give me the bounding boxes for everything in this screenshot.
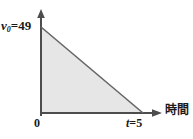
x-intercept-value: 5 — [136, 116, 142, 130]
y-intercept-value: 49 — [18, 18, 31, 33]
origin-label: 0 — [34, 117, 40, 129]
x-axis-arrowhead-icon — [152, 109, 162, 117]
y-axis-arrowhead-icon — [37, 9, 45, 18]
x-intercept-label: t=5 — [126, 117, 142, 129]
x-axis-caption: 時間 — [165, 104, 189, 116]
y-intercept-label: v0=49 — [1, 19, 31, 34]
velocity-time-graph-figure: v0=49 0 t=5 時間 — [0, 0, 193, 139]
